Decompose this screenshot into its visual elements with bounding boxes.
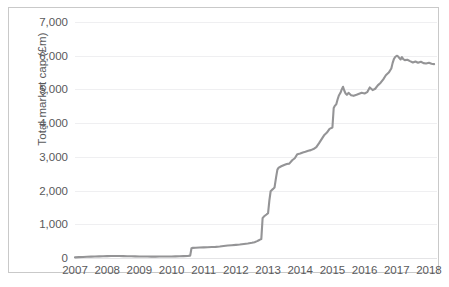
x-tick-label: 2012 [223, 264, 249, 276]
chart-frame: Total market cap (£m) 7,0006,0005,0004,0… [8, 7, 439, 273]
y-tick-label: 0 [62, 252, 68, 264]
x-tick-label: 2015 [320, 264, 346, 276]
y-tick-label: 7,000 [39, 16, 68, 28]
x-tick-label: 2016 [352, 264, 378, 276]
y-tick-label: 4,000 [39, 117, 68, 129]
x-tick-label: 2017 [384, 264, 410, 276]
series-path-total-market-cap [75, 56, 434, 258]
y-tick-label: 2,000 [39, 185, 68, 197]
plot-area: 7,0006,0005,0004,0003,0002,0001,00002007… [75, 22, 437, 258]
x-tick-label: 2009 [127, 264, 153, 276]
chart-figure: Total market cap (£m) 7,0006,0005,0004,0… [0, 0, 449, 287]
line-series [75, 22, 437, 258]
y-tick-label: 3,000 [39, 151, 68, 163]
x-tick-label: 2007 [62, 264, 88, 276]
y-tick-label: 5,000 [39, 83, 68, 95]
x-tick-label: 2014 [287, 264, 313, 276]
x-tick-label: 2008 [94, 264, 120, 276]
x-tick-label: 2018 [416, 264, 442, 276]
y-tick-label: 6,000 [39, 50, 68, 62]
x-tick-label: 2010 [159, 264, 185, 276]
x-tick-label: 2013 [255, 264, 281, 276]
gridline-y-0 [75, 258, 437, 259]
x-tick-label: 2011 [191, 264, 216, 276]
y-tick-label: 1,000 [39, 218, 68, 230]
